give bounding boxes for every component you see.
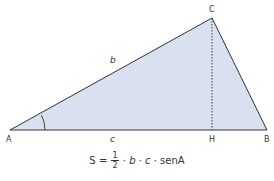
side-label-c: c bbox=[110, 134, 115, 144]
fraction-numerator: 1 bbox=[111, 151, 118, 161]
formula-lhs: S bbox=[89, 155, 95, 166]
vertex-label-c: C bbox=[209, 5, 215, 14]
formula-dot-1: · bbox=[123, 155, 126, 166]
vertex-label-b: B bbox=[264, 135, 270, 144]
formula-dot-3: · bbox=[154, 155, 157, 166]
fraction-denominator: 2 bbox=[111, 161, 118, 170]
formula-var-b: b bbox=[129, 155, 135, 166]
vertex-label-a: A bbox=[6, 135, 12, 144]
formula-var-c: c bbox=[145, 155, 151, 166]
formula-sen-a: senA bbox=[160, 155, 185, 166]
vertex-label-h: H bbox=[209, 135, 215, 144]
formula-dot-2: · bbox=[139, 155, 142, 166]
side-label-b: b bbox=[110, 55, 116, 65]
triangle-abc bbox=[10, 18, 267, 130]
formula-equals: = bbox=[99, 155, 107, 166]
area-formula: S = 1 2 · b · c · senA bbox=[0, 151, 274, 170]
formula-fraction: 1 2 bbox=[111, 151, 118, 170]
